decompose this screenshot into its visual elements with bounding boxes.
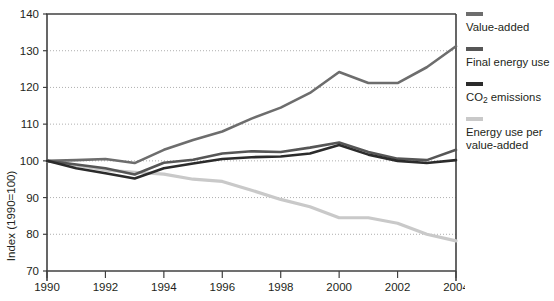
legend-label-value-added: Value-added — [466, 21, 554, 34]
x-tick-label: 1996 — [209, 281, 235, 293]
x-tick-label: 1990 — [34, 281, 60, 293]
y-tick-label: 120 — [20, 81, 39, 93]
gridlines — [47, 51, 456, 235]
y-tick-label: 110 — [21, 118, 39, 130]
x-tick-label: 1994 — [151, 281, 177, 293]
y-tick-label: 80 — [26, 228, 39, 240]
y-tick-label: 100 — [20, 155, 39, 167]
y-tick-label: 90 — [26, 192, 39, 204]
x-tick-label: 1998 — [268, 281, 294, 293]
y-axis-tick-labels: 140130120110100908070 — [20, 8, 39, 277]
data-series-lines — [47, 46, 456, 241]
chart-legend: Value-added Final energy use CO2 emissio… — [466, 12, 554, 152]
series-line — [47, 46, 456, 163]
y-tick-label: 130 — [20, 45, 39, 57]
legend-swatch-co2-emissions — [466, 82, 483, 86]
x-tick-label: 2000 — [326, 281, 352, 293]
legend-item-energy-use-per-value-added: Energy use per value-added — [466, 117, 554, 152]
legend-label-energy-use-per-value-added: Energy use per value-added — [466, 126, 554, 152]
legend-label-final-energy-use: Final energy use — [466, 56, 554, 69]
legend-label-co2-emissions: CO2 emissions — [466, 91, 554, 105]
y-tick-label: 140 — [20, 8, 39, 20]
legend-item-final-energy-use: Final energy use — [466, 47, 554, 69]
x-tick-label: 1992 — [93, 281, 119, 293]
legend-swatch-energy-use-per-value-added — [466, 117, 483, 121]
legend-item-value-added: Value-added — [466, 12, 554, 34]
x-tick-label: 2002 — [385, 281, 411, 293]
line-chart-svg: 140130120110100908070 199019921994199619… — [0, 0, 465, 301]
plot-area-container: 140130120110100908070 199019921994199619… — [0, 0, 465, 301]
x-tick-label: 2004 — [443, 281, 465, 293]
x-axis-tick-labels: 19901992199419961998200020022004 — [34, 281, 465, 293]
chart-figure: 140130120110100908070 199019921994199619… — [0, 0, 554, 301]
legend-swatch-value-added — [466, 12, 483, 16]
axis-ticks — [43, 14, 456, 278]
y-axis-title: Index (1990=100) — [5, 171, 17, 262]
axis-lines — [46, 14, 456, 281]
y-axis-title-text: Index (1990=100) — [5, 171, 17, 262]
y-tick-label: 70 — [26, 265, 39, 277]
legend-item-co2-emissions: CO2 emissions — [466, 82, 554, 105]
legend-swatch-final-energy-use — [466, 47, 483, 51]
